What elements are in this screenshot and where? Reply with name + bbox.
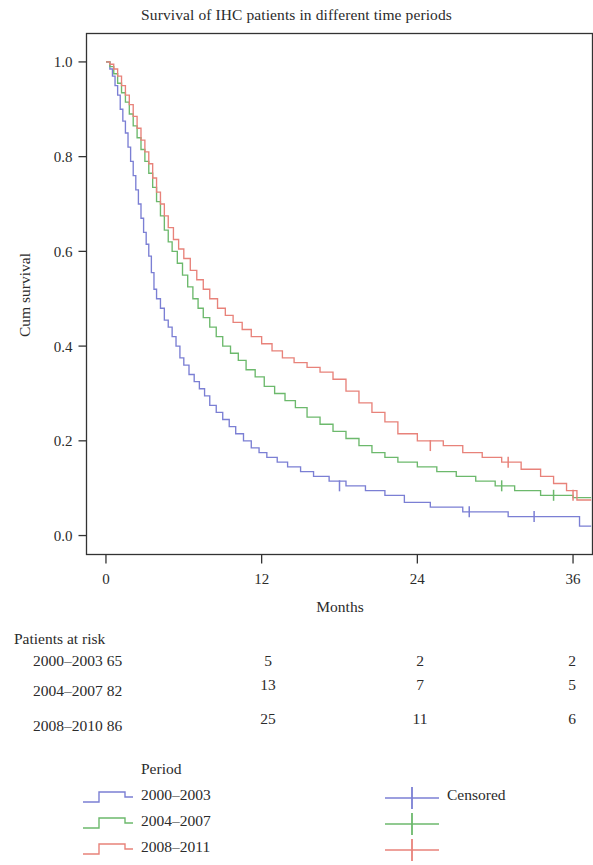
risk-cell: 2 <box>552 652 592 670</box>
y-tick-label: 0.8 <box>54 149 73 165</box>
legend-line-swatch-2004-2007 <box>82 814 134 836</box>
y-tick-label: 1.0 <box>54 54 73 70</box>
table-row: 2008–2010 86 25 11 6 <box>0 717 593 745</box>
legend-item-2008-2011[interactable]: 2008–2011 <box>0 838 593 864</box>
table-row: 2004–2007 82 13 7 5 <box>0 682 593 710</box>
y-tick-label: 0.6 <box>54 244 73 260</box>
y-tick-label: 0.2 <box>54 433 73 449</box>
x-tick-label: 24 <box>410 571 426 587</box>
figure-container: Survival of IHC patients in different ti… <box>0 0 593 865</box>
risk-cell: 6 <box>552 710 592 728</box>
risk-cell: 5 <box>552 676 592 694</box>
censored-marker-2004-2007 <box>383 812 441 840</box>
survival-curve-2004-2007 <box>106 62 591 498</box>
legend-label-2004-2007: 2004–2007 <box>141 812 211 830</box>
legend-line-swatch-2000-2003 <box>82 788 134 810</box>
legend-label-2008-2011: 2008–2011 <box>141 838 210 856</box>
table-row: 2000–2003 65 5 2 2 <box>0 652 593 680</box>
x-tick-label: 0 <box>102 571 110 587</box>
risk-cell: 11 <box>400 710 440 728</box>
risk-cell: 13 <box>248 676 288 694</box>
y-tick-label: 0.0 <box>54 528 73 544</box>
censored-marker-2000-2003 <box>383 786 441 814</box>
censored-legend-label: Censored <box>447 786 506 804</box>
y-axis-ticks: 0.00.20.40.60.81.0 <box>54 54 87 544</box>
risk-cell: 2 <box>400 652 440 670</box>
plot-frame <box>87 34 593 555</box>
legend-line-swatch-2008-2011 <box>82 840 134 862</box>
legend-label-2000-2003: 2000–2003 <box>141 786 211 804</box>
risk-cell: 25 <box>248 710 288 728</box>
risk-table-heading: Patients at risk <box>14 630 105 648</box>
legend-item-2004-2007[interactable]: 2004–2007 <box>0 812 593 838</box>
survival-curve-2008-2011 <box>106 62 591 500</box>
survival-curve-2000-2003 <box>106 62 591 526</box>
censored-marker-2008-2011 <box>383 838 441 865</box>
y-axis-title: Cum survival <box>16 253 33 337</box>
chart-legend: Period 2000–2003 2004–2007 <box>0 760 593 865</box>
risk-row-label: 2008–2010 86 <box>33 717 122 735</box>
y-tick-label: 0.4 <box>54 339 73 355</box>
risk-cell: 5 <box>248 652 288 670</box>
risk-row-label: 2004–2007 82 <box>33 682 122 700</box>
risk-row-label: 2000–2003 65 <box>33 652 122 670</box>
x-axis-title: Months <box>316 598 363 615</box>
x-tick-label: 12 <box>254 571 269 587</box>
survival-curves <box>106 62 591 526</box>
risk-cell: 7 <box>400 676 440 694</box>
x-axis-ticks: 0122436 <box>102 555 581 587</box>
x-tick-label: 36 <box>566 571 582 587</box>
legend-heading: Period <box>141 760 181 778</box>
survival-plot: 0.00.20.40.60.81.0 0122436 Cum survival … <box>0 0 593 630</box>
